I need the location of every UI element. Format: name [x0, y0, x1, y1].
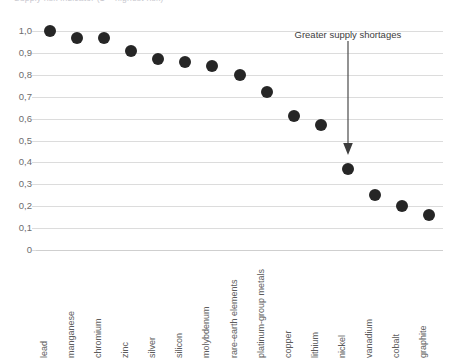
data-point	[125, 45, 137, 57]
data-point	[315, 119, 327, 131]
y-axis-tick-label: 0	[2, 245, 32, 255]
x-axis-tick-label: manganese	[66, 311, 77, 358]
data-point	[396, 200, 408, 212]
x-axis-tick: cobalt	[396, 254, 408, 358]
x-axis-tick-label: chromium	[93, 318, 104, 358]
y-axis-tick-label: 0,8	[2, 70, 32, 80]
gridline	[36, 53, 443, 54]
x-axis-tick-label: zinc	[120, 342, 131, 358]
x-axis-tick: silicon	[179, 254, 191, 358]
x-axis-tick-label: copper	[283, 330, 294, 358]
x-axis-tick-label: platinum-group metals	[256, 269, 267, 358]
y-axis-tick-label: 0,5	[2, 136, 32, 146]
x-axis-tick: zinc	[125, 254, 137, 358]
y-axis-tick-label: 1,0	[2, 26, 32, 36]
gridline	[36, 184, 443, 185]
data-point	[152, 53, 164, 65]
y-axis-tick-label: 0,6	[2, 114, 32, 124]
x-axis-tick-label: graphite	[418, 325, 429, 358]
x-axis-tick: molybdenum	[206, 254, 218, 358]
supply-risk-scatter-chart: Supply risk indicator (1 = highest risk)…	[0, 0, 457, 360]
data-point	[206, 60, 218, 72]
data-point	[423, 209, 435, 221]
y-axis-tick-label: 0,3	[2, 179, 32, 189]
x-axis-tick-label: vanadium	[364, 319, 375, 358]
data-point	[288, 110, 300, 122]
x-axis-tick: lithium	[315, 254, 327, 358]
y-axis-tick-label: 0,4	[2, 157, 32, 167]
x-axis: leadmanganesechromiumzincsilversiliconmo…	[36, 252, 443, 358]
x-axis-tick: nickel	[342, 254, 354, 358]
data-point	[369, 189, 381, 201]
x-axis-tick-label: rare-earth elements	[229, 279, 240, 358]
y-axis-tick-label: 0,1	[2, 223, 32, 233]
x-axis-tick: platinum-group metals	[261, 254, 273, 358]
x-axis-tick-label: nickel	[337, 335, 348, 358]
plot-area	[36, 31, 443, 250]
x-axis-tick-label: cobalt	[391, 334, 402, 358]
x-axis-tick: rare-earth elements	[234, 254, 246, 358]
data-point	[98, 32, 110, 44]
gridline	[36, 250, 443, 251]
x-axis-tick: lead	[44, 254, 56, 358]
gridline	[36, 162, 443, 163]
x-axis-tick-label: lithium	[310, 332, 321, 358]
x-axis-tick: chromium	[98, 254, 110, 358]
data-point	[261, 86, 273, 98]
x-axis-tick-label: lead	[39, 341, 50, 358]
clipped-caption-strip: Supply risk indicator (1 = highest risk)	[0, 0, 457, 9]
y-axis: 1,00,90,80,70,60,50,40,30,20,10	[0, 31, 32, 250]
x-axis-tick: silver	[152, 254, 164, 358]
data-point	[342, 163, 354, 175]
caption-text: Supply risk indicator (1 = highest risk)	[14, 0, 164, 3]
x-axis-tick-label: silver	[147, 337, 158, 358]
gridline	[36, 119, 443, 120]
x-axis-tick: graphite	[423, 254, 435, 358]
data-point	[234, 69, 246, 81]
x-axis-tick-label: silicon	[174, 333, 185, 358]
x-axis-tick-label: molybdenum	[201, 306, 212, 358]
y-axis-tick-label: 0,7	[2, 92, 32, 102]
data-point	[71, 32, 83, 44]
x-axis-tick: manganese	[71, 254, 83, 358]
data-point	[179, 56, 191, 68]
down-arrow-icon	[338, 41, 358, 155]
gridline	[36, 97, 443, 98]
x-axis-tick: vanadium	[369, 254, 381, 358]
gridline	[36, 206, 443, 207]
y-axis-tick-label: 0,9	[2, 48, 32, 58]
data-point	[44, 25, 56, 37]
gridline	[36, 141, 443, 142]
y-axis-tick-label: 0,2	[2, 201, 32, 211]
gridline	[36, 228, 443, 229]
annotation-label: Greater supply shortages	[295, 30, 402, 40]
x-axis-tick: copper	[288, 254, 300, 358]
